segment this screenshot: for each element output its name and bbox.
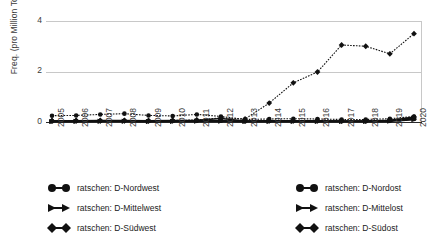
data-point: [195, 112, 200, 117]
legend-marker-diamond-icon: [48, 223, 70, 233]
legend-column-left: ratschen: D-Nordwest ratschen: D-Mittelw…: [48, 178, 253, 238]
legend-label: ratschen: D-Mittelost: [325, 203, 403, 213]
legend-column-right: ratschen: D-Nordost ratschen: D-Mittelos…: [296, 178, 431, 238]
y-tick-label-2: 2: [28, 65, 42, 75]
x-tick-label-2009: 2009: [153, 108, 163, 127]
legend-item[interactable]: ratschen: D-Nordwest: [48, 178, 253, 198]
data-point: [146, 113, 151, 118]
data-point: [411, 31, 417, 37]
legend-marker-circle-icon: [48, 183, 70, 193]
legend-label: ratschen: D-Nordost: [325, 183, 401, 193]
x-tick-label-2017: 2017: [346, 108, 356, 127]
data-point: [122, 111, 127, 116]
x-tick-label-2015: 2015: [297, 108, 307, 127]
x-tick-label-2008: 2008: [128, 108, 138, 127]
y-axis-title: Freq. (pro Million Tokens): [9, 0, 23, 85]
legend-item[interactable]: ratschen: D-Mittelost: [296, 198, 431, 218]
data-point: [363, 43, 369, 49]
legend-label: ratschen: D-Südwest: [77, 223, 156, 233]
x-tick-label-2014: 2014: [273, 108, 283, 127]
legend-label: ratschen: D-Südost: [325, 223, 398, 233]
legend-item[interactable]: ratschen: D-Südwest: [48, 218, 253, 238]
legend-marker-diamond-icon: [296, 223, 318, 233]
series-layer: [46, 21, 422, 122]
data-point: [98, 112, 103, 117]
x-tick-label-2013: 2013: [249, 108, 259, 127]
x-tick-label-2020: 2020: [418, 108, 428, 127]
legend-marker-triangle-icon: [48, 203, 70, 213]
x-tick-label-2016: 2016: [321, 108, 331, 127]
x-tick-label-2007: 2007: [104, 108, 114, 127]
chart-figure: Freq. (pro Million Tokens) 4 2 0 2005200…: [0, 0, 431, 242]
legend-item[interactable]: ratschen: D-Südost: [296, 218, 431, 238]
x-tick-label-2019: 2019: [394, 108, 404, 127]
x-tick-label-2006: 2006: [80, 108, 90, 127]
data-point: [50, 113, 55, 118]
x-tick-label-2012: 2012: [225, 108, 235, 127]
data-point: [266, 100, 272, 106]
legend-label: ratschen: D-Nordwest: [77, 183, 159, 193]
x-tick-label-2011: 2011: [201, 109, 211, 127]
legend-item[interactable]: ratschen: D-Mittelwest: [48, 198, 253, 218]
data-point: [170, 114, 175, 119]
y-tick-label-0: 0: [28, 116, 42, 126]
data-point: [74, 113, 79, 118]
x-tick-label-2018: 2018: [370, 108, 380, 127]
chart-legend: ratschen: D-Nordwest ratschen: D-Mittelw…: [0, 178, 431, 242]
legend-marker-triangle-icon: [296, 203, 318, 213]
x-tick-label-2010: 2010: [177, 108, 187, 127]
legend-marker-circle-icon: [296, 183, 318, 193]
x-tick-label-2005: 2005: [56, 108, 66, 127]
legend-item[interactable]: ratschen: D-Nordost: [296, 178, 431, 198]
y-tick-label-4: 4: [28, 15, 42, 25]
legend-label: ratschen: D-Mittelwest: [77, 203, 161, 213]
